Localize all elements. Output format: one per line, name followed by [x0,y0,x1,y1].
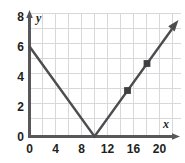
y-tick-label: 8 [17,10,24,24]
y-tick-label: 0 [17,130,24,144]
x-axis [29,133,181,140]
x-tick-label: 20 [153,142,167,156]
curve-arrow [168,20,178,32]
grid-lines [29,13,181,137]
y-axis-label: y [34,11,42,25]
chart-container: 0 2 4 6 8 0 4 8 12 16 20 y x [0,0,185,163]
data-point-marker [144,60,151,67]
x-tick-labels: 0 4 8 12 16 20 [26,142,166,156]
y-tick-label: 2 [17,100,24,114]
x-tick-label: 16 [127,142,141,156]
x-tick-label: 4 [52,142,59,156]
x-tick-label: 8 [78,142,85,156]
x-tick-label: 0 [26,142,33,156]
y-tick-label: 6 [17,40,24,54]
y-tick-label: 4 [17,70,24,84]
x-axis-label: x [162,117,169,131]
function-curve [30,20,179,137]
absolute-value-graph: 0 2 4 6 8 0 4 8 12 16 20 y x [0,0,185,163]
data-point-marker [124,87,131,94]
y-tick-labels: 0 2 4 6 8 [17,10,24,144]
x-tick-label: 12 [101,142,115,156]
x-axis-arrow [172,133,180,140]
